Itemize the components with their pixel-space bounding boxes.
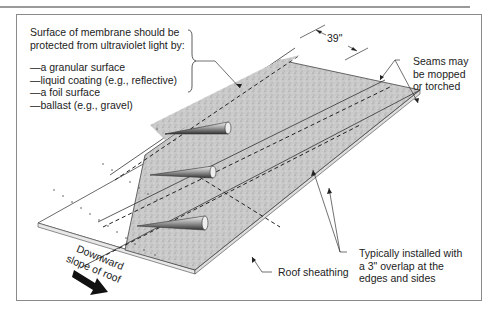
uv-note-line: protected from ultraviolet light by: [30, 39, 185, 52]
uv-option-granular: —a granular surface [30, 61, 185, 74]
overlap-line: Typically installed with [359, 247, 462, 260]
seams-line: or torched [413, 80, 468, 93]
uv-note-line: Surface of membrane should be [30, 26, 185, 39]
uv-option-ballast: —ballast (e.g., gravel) [30, 99, 185, 112]
sheathing-label: Roof sheathing [278, 266, 349, 279]
overlap-line: a 3" overlap at the [359, 260, 462, 273]
seams-label: Seams may be mopped or torched [413, 55, 468, 93]
uv-option-liquid: —liquid coating (e.g., reflective) [30, 74, 185, 87]
overlap-line: edges and sides [359, 272, 462, 285]
uv-option-foil: —a foil surface [30, 86, 185, 99]
overlap-label: Typically installed with a 3" overlap at… [359, 247, 462, 285]
overlap-leader [313, 170, 347, 252]
dimension-label: 39" [327, 32, 342, 45]
seams-line: be mopped [413, 68, 468, 81]
seams-line: Seams may [413, 55, 468, 68]
uv-note: Surface of membrane should be protected … [30, 26, 185, 111]
brace [188, 30, 196, 92]
